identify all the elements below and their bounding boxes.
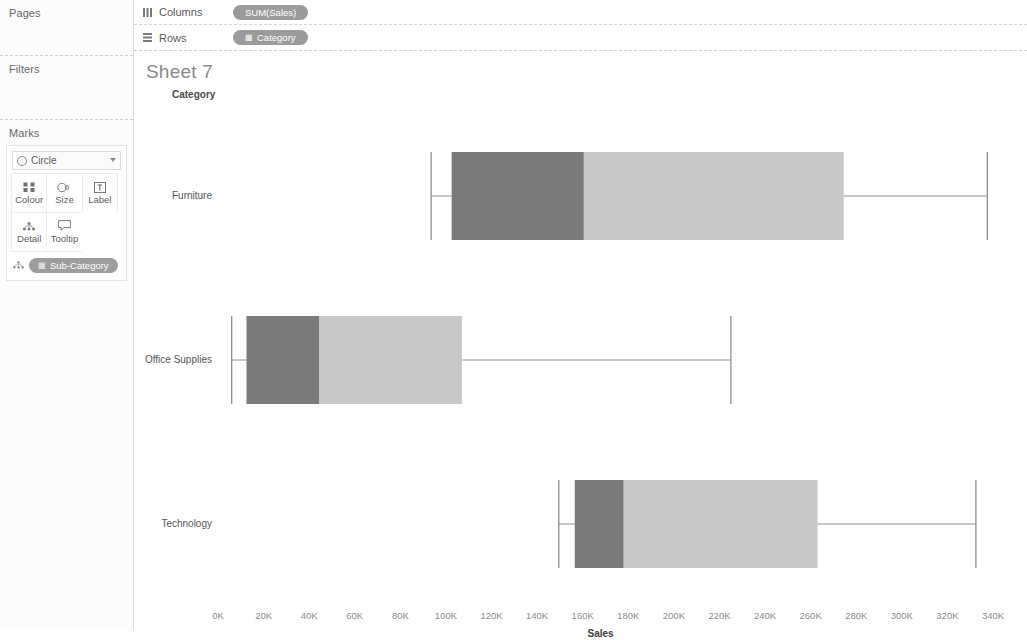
marks-card-title: Marks	[0, 120, 133, 139]
row-field-caption: Category	[134, 83, 1027, 100]
row-label-office-supplies[interactable]: Office Supplies	[134, 354, 212, 365]
label-icon	[94, 182, 106, 193]
colour-icon	[23, 182, 36, 193]
marks-button-grid: Colour Size	[12, 174, 121, 252]
x-tick-label: 80K	[376, 610, 424, 621]
box-segment[interactable]	[575, 480, 624, 568]
x-tick-label: 220K	[695, 610, 743, 621]
pill-category[interactable]: ▦ Category	[233, 30, 308, 45]
marks-label-button[interactable]: Label	[82, 173, 118, 213]
size-icon	[57, 182, 71, 193]
box-segment[interactable]	[584, 152, 844, 240]
x-tick-label: 240K	[741, 610, 789, 621]
marks-empty-cell	[82, 212, 118, 252]
rows-shelf-label: Rows	[159, 32, 233, 44]
x-tick-label: 180K	[604, 610, 652, 621]
x-tick-label: 100K	[422, 610, 470, 621]
marks-detail-button[interactable]: Detail	[11, 212, 47, 252]
pill-sum-sales[interactable]: SUM(Sales)	[233, 5, 308, 20]
shelf-container: Columns SUM(Sales) Rows ▦ Category	[134, 0, 1027, 51]
x-tick-label: 340K	[969, 610, 1017, 621]
box-plot-svg	[134, 100, 1027, 640]
x-tick-label: 300K	[878, 610, 926, 621]
pill-sum-sales-label: SUM(Sales)	[245, 7, 296, 18]
columns-icon	[142, 8, 153, 17]
pages-card[interactable]: Pages	[0, 0, 133, 56]
box-plot-view[interactable]: FurnitureOffice SuppliesTechnology0K20K4…	[134, 100, 1027, 640]
mark-type-selector[interactable]: Circle	[12, 151, 121, 170]
pill-sub-category-label: Sub-Category	[50, 260, 109, 271]
filters-card[interactable]: Filters	[0, 56, 133, 120]
box-segment[interactable]	[319, 316, 461, 404]
chevron-down-icon	[110, 158, 116, 162]
marks-tooltip-label: Tooltip	[51, 234, 78, 244]
pill-category-label: Category	[257, 32, 296, 43]
rows-shelf[interactable]: Rows ▦ Category	[134, 25, 1027, 50]
x-tick-label: 200K	[650, 610, 698, 621]
marks-card: Marks Circle	[0, 120, 133, 281]
rows-icon	[142, 33, 153, 42]
mark-type-label: Circle	[31, 155, 57, 166]
x-axis-title[interactable]: Sales	[588, 628, 614, 639]
columns-shelf-label: Columns	[159, 6, 233, 18]
row-label-furniture[interactable]: Furniture	[134, 190, 212, 201]
x-tick-label: 20K	[240, 610, 288, 621]
marks-detail-label: Detail	[17, 234, 41, 244]
box-segment[interactable]	[452, 152, 584, 240]
worksheet-main: Columns SUM(Sales) Rows ▦ Category	[134, 0, 1027, 630]
marks-colour-button[interactable]: Colour	[11, 173, 47, 213]
x-tick-label: 120K	[468, 610, 516, 621]
x-tick-label: 40K	[285, 610, 333, 621]
circle-icon	[17, 156, 27, 166]
pages-card-title: Pages	[0, 0, 133, 19]
row-label-technology[interactable]: Technology	[134, 518, 212, 529]
marks-size-button[interactable]: Size	[46, 173, 82, 213]
x-tick-label: 260K	[787, 610, 835, 621]
x-tick-label: 280K	[832, 610, 880, 621]
marks-colour-label: Colour	[15, 195, 43, 205]
marks-label-label: Label	[88, 195, 111, 205]
x-tick-label: 60K	[331, 610, 379, 621]
filters-card-title: Filters	[0, 56, 133, 75]
dimension-icon: ▦	[245, 33, 253, 42]
left-rail: Pages Filters Marks Circle	[0, 0, 134, 630]
marks-detail-pill-row: ▦ Sub-Category	[12, 258, 121, 273]
marks-size-label: Size	[55, 195, 73, 205]
dimension-icon: ▦	[38, 261, 46, 270]
detail-icon-small	[12, 260, 25, 272]
marks-box: Circle Colour	[6, 145, 127, 281]
box-segment[interactable]	[246, 316, 319, 404]
pill-sub-category[interactable]: ▦ Sub-Category	[29, 258, 118, 273]
box-segment[interactable]	[624, 480, 818, 568]
x-tick-label: 140K	[513, 610, 561, 621]
x-tick-label: 320K	[923, 610, 971, 621]
x-tick-label: 160K	[559, 610, 607, 621]
page-title: Sheet 7	[134, 51, 1027, 83]
x-tick-label: 0K	[194, 610, 242, 621]
columns-shelf[interactable]: Columns SUM(Sales)	[134, 0, 1027, 25]
tooltip-icon	[58, 220, 71, 232]
marks-tooltip-button[interactable]: Tooltip	[46, 212, 82, 252]
detail-icon	[22, 221, 36, 232]
